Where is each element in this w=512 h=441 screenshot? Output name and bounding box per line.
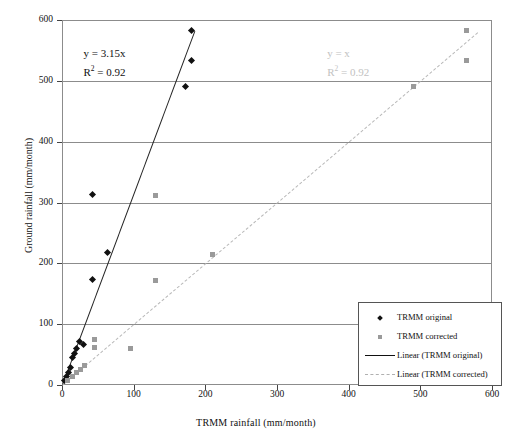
annotation-trmm-original: y = 3.15x R2 = 0.92 bbox=[84, 46, 126, 80]
r2-corrected: R2 = 0.92 bbox=[327, 61, 369, 80]
y-axis-tick bbox=[57, 20, 62, 21]
data-point-trmm-corrected bbox=[82, 363, 87, 368]
y-axis-tick bbox=[57, 263, 62, 264]
x-axis-tick bbox=[349, 385, 350, 390]
y-axis-tick bbox=[57, 142, 62, 143]
data-point-trmm-corrected bbox=[153, 278, 158, 283]
data-point-trmm-corrected bbox=[411, 84, 416, 89]
legend-item-trmm-original: TRMM original bbox=[363, 308, 497, 327]
x-axis-tick-label: 400 bbox=[329, 389, 369, 399]
x-axis-tick-label: 200 bbox=[185, 389, 225, 399]
equation-corrected: y = x bbox=[327, 46, 369, 61]
x-axis-tick-label: 0 bbox=[42, 389, 82, 399]
y-axis-tick bbox=[57, 203, 62, 204]
y-axis-tick-label: 600 bbox=[19, 15, 53, 25]
legend-item-trmm-corrected: TRMM corrected bbox=[363, 327, 497, 346]
diamond-marker-icon bbox=[363, 316, 397, 320]
equation-original: y = 3.15x bbox=[84, 46, 126, 61]
x-axis-tick bbox=[277, 385, 278, 390]
data-point-trmm-corrected bbox=[464, 58, 469, 63]
chart-legend: TRMM original TRMM corrected Linear (TRM… bbox=[358, 302, 502, 386]
x-axis-tick-label: 300 bbox=[257, 389, 297, 399]
legend-label: TRMM corrected bbox=[397, 332, 457, 341]
gridline bbox=[63, 81, 491, 82]
y-axis-tick bbox=[57, 81, 62, 82]
x-axis-tick-label: 500 bbox=[400, 389, 440, 399]
data-point-trmm-corrected bbox=[210, 252, 215, 257]
data-point-trmm-corrected bbox=[92, 337, 97, 342]
square-marker-icon bbox=[363, 335, 397, 339]
gridline bbox=[63, 142, 491, 143]
chart-page: 0100200300400500600 0100200300400500600 … bbox=[0, 0, 512, 441]
data-point-trmm-corrected bbox=[153, 193, 158, 198]
legend-item-linear-trmm-corrected: Linear (TRMM corrected) bbox=[363, 365, 497, 384]
y-axis-tick bbox=[57, 324, 62, 325]
x-axis-title: TRMM rainfall (mm/month) bbox=[0, 417, 512, 428]
r2-original: R2 = 0.92 bbox=[84, 61, 126, 80]
x-axis-tick bbox=[205, 385, 206, 390]
data-point-trmm-corrected bbox=[92, 345, 97, 350]
legend-label: Linear (TRMM original) bbox=[397, 351, 482, 360]
legend-item-linear-trmm-original: Linear (TRMM original) bbox=[363, 346, 497, 365]
gridline bbox=[63, 263, 491, 264]
legend-label: Linear (TRMM corrected) bbox=[397, 370, 488, 379]
data-point-trmm-corrected bbox=[464, 28, 469, 33]
data-point-trmm-corrected bbox=[128, 346, 133, 351]
dash-dot-line-icon bbox=[363, 374, 397, 375]
x-axis-tick bbox=[134, 385, 135, 390]
legend-label: TRMM original bbox=[397, 313, 452, 322]
x-axis-tick-label: 600 bbox=[472, 389, 512, 399]
annotation-trmm-corrected: y = x R2 = 0.92 bbox=[327, 46, 369, 80]
solid-line-icon bbox=[363, 355, 397, 356]
y-axis-title: Ground rainfall (mm/month) bbox=[23, 46, 34, 346]
x-axis-tick-label: 100 bbox=[114, 389, 154, 399]
